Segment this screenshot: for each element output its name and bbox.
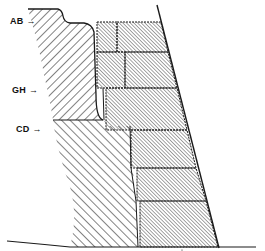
block-row4	[131, 130, 196, 168]
label-ab: AB →	[10, 16, 36, 26]
block-row3	[106, 88, 187, 130]
block-row1-left	[97, 22, 117, 52]
label-gh-text: GH	[12, 85, 26, 95]
block-row5	[137, 168, 206, 201]
tick-mark	[181, 249, 182, 250]
label-cd: CD →	[16, 124, 42, 134]
label-cd-text: CD	[16, 124, 30, 134]
block-row2-left	[97, 52, 125, 88]
block-row6	[140, 201, 218, 247]
lower-backfill-layer	[53, 120, 138, 247]
arrow-right-icon: →	[26, 16, 35, 26]
upper-backfill-layer	[28, 9, 103, 120]
arrow-right-icon: →	[32, 124, 41, 134]
block-row1-right	[117, 22, 168, 52]
label-ab-text: AB	[10, 16, 24, 26]
label-gh: GH →	[12, 85, 38, 95]
block-row2-right	[125, 52, 177, 88]
arrow-right-icon: →	[29, 85, 38, 95]
